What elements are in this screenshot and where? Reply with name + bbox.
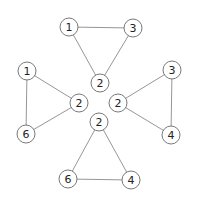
- node-left-2: 2: [70, 94, 88, 112]
- node-top-1: 1: [60, 18, 78, 36]
- edge-left-1-6: [26, 71, 27, 134]
- node-label: 4: [168, 129, 175, 142]
- edge-top-3-2: [100, 28, 133, 83]
- edges-layer: [26, 27, 172, 180]
- node-right-3: 3: [163, 61, 181, 79]
- edge-right-3-4: [171, 70, 172, 135]
- node-top-3: 3: [124, 19, 142, 37]
- node-bottom-6: 6: [59, 170, 77, 188]
- nodes-layer: 132126324264: [17, 18, 181, 189]
- triangle-graphs-diagram: 132126324264: [0, 0, 215, 198]
- node-left-1: 1: [18, 62, 36, 80]
- triangle-bottom: 264: [59, 113, 140, 189]
- node-label: 6: [65, 173, 72, 186]
- edge-top-1-3: [69, 27, 133, 28]
- node-label: 3: [169, 64, 176, 77]
- triangle-left: 126: [17, 62, 88, 143]
- node-label: 2: [96, 116, 103, 129]
- triangle-top: 132: [60, 18, 142, 92]
- node-label: 2: [76, 97, 83, 110]
- node-label: 6: [23, 128, 30, 141]
- edge-bottom-6-4: [68, 179, 131, 180]
- node-label: 2: [115, 97, 122, 110]
- node-left-6: 6: [17, 125, 35, 143]
- edge-top-1-2: [69, 27, 100, 83]
- edge-bottom-2-4: [99, 122, 131, 180]
- node-label: 1: [24, 65, 31, 78]
- node-bottom-4: 4: [122, 171, 140, 189]
- node-label: 4: [128, 174, 135, 187]
- node-right-4: 4: [162, 126, 180, 144]
- node-label: 2: [97, 77, 104, 90]
- node-label: 1: [66, 21, 73, 34]
- node-bottom-2: 2: [90, 113, 108, 131]
- node-right-2: 2: [109, 94, 127, 112]
- node-top-2: 2: [91, 74, 109, 92]
- edge-bottom-2-6: [68, 122, 99, 179]
- triangle-right: 324: [109, 61, 181, 144]
- node-label: 3: [130, 22, 137, 35]
- edge-right-3-2: [118, 70, 172, 103]
